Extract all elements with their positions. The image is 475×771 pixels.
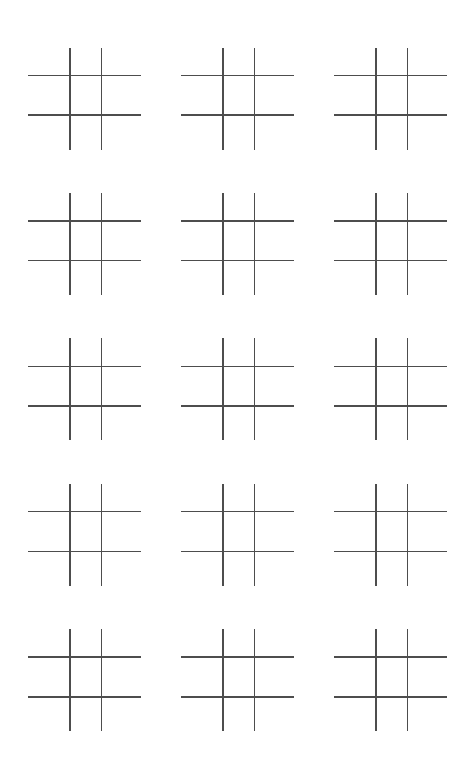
board-square-3[interactable] [191,392,223,432]
board-square-1[interactable] [280,101,312,141]
board-square-7[interactable] [127,35,159,75]
board-square-2[interactable] [6,101,38,141]
board-square-1[interactable] [280,246,312,286]
tic-tac-toe-board[interactable] [181,629,294,731]
board-square-2[interactable] [159,101,191,141]
board-square-2[interactable] [312,246,344,286]
board-square-3[interactable] [38,537,70,577]
board-square-6[interactable] [191,431,223,471]
board-square-3[interactable] [191,537,223,577]
board-square-9[interactable] [344,471,376,511]
board-square-6[interactable] [344,577,376,617]
board-square-6[interactable] [38,577,70,617]
board-square-4[interactable] [280,0,312,35]
board-square-7[interactable] [127,326,159,366]
board-square-5[interactable] [6,141,38,181]
board-square-5[interactable] [159,431,191,471]
board-square-3[interactable] [344,101,376,141]
board-square-9[interactable] [191,35,223,75]
board-square-9[interactable] [38,617,70,657]
board-square-5[interactable] [312,0,344,35]
board-square-8[interactable] [159,35,191,75]
board-square-9[interactable] [191,180,223,220]
tic-tac-toe-board[interactable] [334,629,447,731]
board-square-8[interactable] [6,180,38,220]
board-square-7[interactable] [280,326,312,366]
tic-tac-toe-board[interactable] [28,629,141,731]
board-square-8[interactable] [312,35,344,75]
board-square-6[interactable] [38,141,70,181]
board-square-7[interactable] [127,180,159,220]
board-square-8[interactable] [159,326,191,366]
board-square-5[interactable] [159,286,191,326]
board-square-9[interactable] [38,180,70,220]
board-square-2[interactable] [6,537,38,577]
board-square-3[interactable] [191,101,223,141]
board-square-6[interactable] [38,431,70,471]
board-square-8[interactable] [6,471,38,511]
board-square-9[interactable] [191,471,223,511]
board-square-4[interactable] [280,577,312,617]
board-square-6[interactable] [191,286,223,326]
board-square-5[interactable] [312,286,344,326]
board-square-4[interactable] [280,286,312,326]
board-square-9[interactable] [191,326,223,366]
board-square-2[interactable] [159,246,191,286]
board-square-5[interactable] [159,141,191,181]
board-square-3[interactable] [38,246,70,286]
board-square-2[interactable] [312,101,344,141]
board-square-8[interactable] [159,180,191,220]
board-square-7[interactable] [127,471,159,511]
board-square-5[interactable] [6,0,38,35]
board-square-4[interactable] [127,141,159,181]
board-square-3[interactable] [38,101,70,141]
board-square-4[interactable] [280,431,312,471]
board-square-3[interactable] [191,246,223,286]
board-square-7[interactable] [280,617,312,657]
board-square-8[interactable] [6,617,38,657]
board-square-5[interactable] [312,577,344,617]
board-square-5[interactable] [6,431,38,471]
board-square-6[interactable] [344,286,376,326]
board-square-7[interactable] [280,471,312,511]
board-square-9[interactable] [38,326,70,366]
board-square-1[interactable] [280,537,312,577]
board-square-9[interactable] [38,471,70,511]
board-square-5[interactable] [159,0,191,35]
board-square-4[interactable] [280,141,312,181]
board-square-5[interactable] [6,577,38,617]
board-square-8[interactable] [312,471,344,511]
board-square-6[interactable] [191,0,223,35]
board-square-9[interactable] [191,617,223,657]
board-square-2[interactable] [312,537,344,577]
board-square-9[interactable] [344,180,376,220]
board-square-1[interactable] [127,537,159,577]
board-square-7[interactable] [127,617,159,657]
board-square-1[interactable] [127,392,159,432]
board-square-5[interactable] [312,141,344,181]
board-square-2[interactable] [312,392,344,432]
board-square-8[interactable] [6,326,38,366]
board-square-3[interactable] [344,537,376,577]
board-square-2[interactable] [159,392,191,432]
board-square-3[interactable] [344,246,376,286]
board-square-2[interactable] [6,392,38,432]
board-square-5[interactable] [312,431,344,471]
board-square-8[interactable] [312,326,344,366]
board-square-6[interactable] [344,141,376,181]
board-square-2[interactable] [159,537,191,577]
board-square-4[interactable] [127,431,159,471]
board-square-2[interactable] [6,246,38,286]
board-square-4[interactable] [127,577,159,617]
board-square-8[interactable] [312,180,344,220]
board-square-6[interactable] [38,286,70,326]
board-square-8[interactable] [312,617,344,657]
board-square-1[interactable] [280,392,312,432]
board-square-9[interactable] [344,617,376,657]
board-square-7[interactable] [280,180,312,220]
board-square-1[interactable] [127,101,159,141]
board-square-7[interactable] [280,35,312,75]
board-square-9[interactable] [38,35,70,75]
board-square-1[interactable] [127,246,159,286]
board-square-6[interactable] [38,0,70,35]
